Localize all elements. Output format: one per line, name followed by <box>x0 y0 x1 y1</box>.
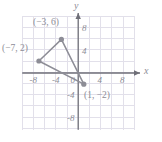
coordinate-plane-svg <box>0 0 162 142</box>
triangle-sides <box>39 39 84 84</box>
y-tick-label-4: 4 <box>82 47 87 56</box>
x-axis-label: x <box>144 66 148 76</box>
vertex-point <box>36 58 41 63</box>
coordinate-plane-figure: -8 -4 0 4 8 8 4 -4 -8 x y (−3, 6) (−7, 2… <box>0 0 162 142</box>
point-label-b: (−7, 2) <box>2 44 28 54</box>
x-tick-label-4: 4 <box>98 76 103 85</box>
x-tick-label-neg8: -8 <box>30 76 38 85</box>
x-tick-label-8: 8 <box>120 76 125 85</box>
vertex-point <box>59 37 64 42</box>
vertex-markers <box>36 37 86 87</box>
y-tick-label-8: 8 <box>82 24 87 33</box>
y-axis-label: y <box>74 1 78 11</box>
x-tick-label-neg4: -4 <box>52 76 60 85</box>
origin-label: 0 <box>71 76 76 85</box>
point-label-a: (−3, 6) <box>33 18 59 28</box>
y-tick-label-neg4: -4 <box>67 91 75 100</box>
point-label-c: (1, −2) <box>84 91 110 101</box>
vertex-point <box>81 82 86 87</box>
y-tick-label-neg8: -8 <box>67 114 75 123</box>
